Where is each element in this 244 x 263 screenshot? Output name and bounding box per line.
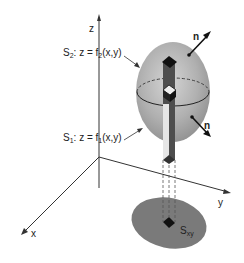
projection-label: Sxy <box>180 226 194 237</box>
upper-surface-label: S2: z = f2(x,y) <box>63 48 122 59</box>
lower-surface-label: S1: z = f1(x,y) <box>63 133 122 144</box>
leader-lower <box>124 128 143 140</box>
normal-label-lower: n <box>204 121 210 131</box>
z-axis-label: z <box>89 24 94 34</box>
normal-label-upper: n <box>193 32 199 42</box>
x-axis <box>21 157 99 235</box>
vertical-column <box>163 62 175 164</box>
y-axis-label: y <box>218 198 223 208</box>
y-axis <box>99 157 231 194</box>
leader-upper <box>124 56 140 68</box>
diagram-canvas <box>0 0 244 263</box>
z-axis <box>97 14 101 188</box>
x-axis-label: x <box>31 229 36 239</box>
